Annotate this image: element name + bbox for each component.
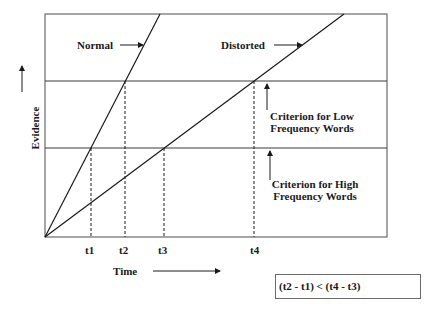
- high-criterion-label-line2: Frequency Words: [265, 190, 365, 202]
- formula-box: (t2 - t1) < (t4 - t3): [275, 274, 421, 299]
- distorted-label: Distorted: [221, 39, 265, 51]
- y-axis-label: Evidence: [29, 103, 41, 153]
- tick-t4: t4: [250, 244, 259, 256]
- tick-t3: t3: [158, 244, 167, 256]
- high-criterion-label: Criterion for High Frequency Words: [265, 178, 365, 202]
- low-criterion-label-line2: Frequency Words: [262, 122, 362, 134]
- normal-label: Normal: [77, 39, 113, 51]
- low-criterion-label: Criterion for Low Frequency Words: [262, 110, 362, 134]
- tick-t2: t2: [119, 244, 128, 256]
- tick-t1: t1: [85, 244, 94, 256]
- high-criterion-label-line1: Criterion for High: [265, 178, 365, 190]
- diagram-canvas: [0, 0, 435, 314]
- low-criterion-label-line1: Criterion for Low: [262, 110, 362, 122]
- x-axis-label: Time: [113, 265, 137, 277]
